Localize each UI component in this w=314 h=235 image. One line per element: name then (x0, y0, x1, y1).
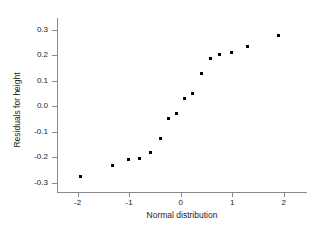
x-tick-label: 2 (274, 199, 294, 207)
y-tick-label: -0.3 (34, 179, 48, 187)
data-point (167, 117, 170, 120)
x-tick-label: -1 (119, 199, 139, 207)
data-point (79, 175, 82, 178)
data-point (127, 158, 130, 161)
x-axis-title: Normal distribution (57, 211, 307, 220)
y-tick-label: -0.2 (34, 153, 48, 161)
x-tick-mark (129, 193, 130, 197)
data-point (209, 57, 212, 60)
y-tick-label: 0.0 (37, 102, 48, 110)
x-tick-label: -2 (68, 199, 88, 207)
y-axis-title: Residuals for height (10, 23, 24, 197)
x-tick-label: 0 (171, 199, 191, 207)
data-point (159, 137, 162, 140)
x-tick-mark (232, 193, 233, 197)
x-tick-mark (181, 193, 182, 197)
data-point (183, 97, 186, 100)
data-point (191, 92, 194, 95)
y-tick-label: 0.3 (37, 26, 48, 34)
y-tick-label: -0.1 (34, 128, 48, 136)
data-point (218, 53, 221, 56)
data-point (246, 45, 249, 48)
data-point (200, 72, 203, 75)
x-tick-mark (78, 193, 79, 197)
data-point (138, 157, 141, 160)
data-point (175, 112, 178, 115)
data-point (230, 51, 233, 54)
normal-probability-plot: -0.3-0.2-0.10.00.10.20.3 -2-1012 Residua… (0, 0, 314, 235)
data-point (111, 164, 114, 167)
x-axis-line (57, 192, 307, 193)
y-tick-label: 0.1 (37, 77, 48, 85)
x-tick-mark (284, 193, 285, 197)
y-tick-label: 0.2 (37, 51, 48, 59)
data-point (277, 34, 280, 37)
data-point (149, 151, 152, 154)
x-tick-label: 1 (222, 199, 242, 207)
plot-area (57, 18, 307, 192)
